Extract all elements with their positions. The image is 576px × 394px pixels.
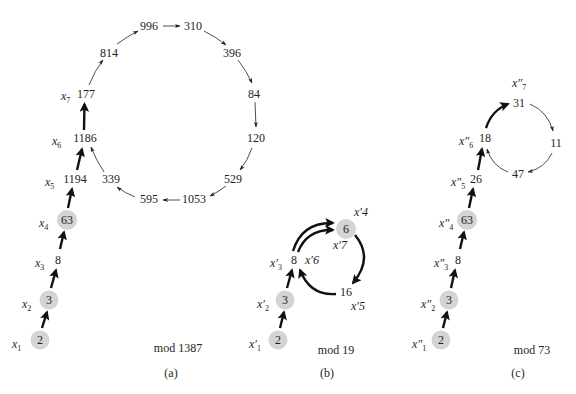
node-value: 47	[512, 167, 524, 181]
cycle-arrow	[528, 153, 552, 172]
node-value: 8	[291, 253, 297, 267]
cycle-arrow	[300, 270, 336, 294]
node-label: x5	[44, 175, 54, 191]
node-value: 595	[140, 192, 158, 206]
node-label: x″3	[433, 256, 448, 272]
node-value: 2	[438, 333, 444, 347]
panel-label: (b)	[320, 366, 334, 380]
node-label: x1	[11, 337, 21, 353]
tail-arrow	[68, 189, 72, 208]
cycle-arrow	[240, 148, 252, 170]
modulus-label: mod 1387	[154, 341, 202, 355]
node-value: 63	[61, 213, 73, 227]
node-value: 8	[55, 253, 61, 267]
cycle-arrow	[117, 187, 135, 197]
node-value: 3	[282, 293, 288, 307]
cycle-arrow	[238, 60, 252, 83]
node-label: x′6	[304, 253, 319, 267]
cycle-arrow	[91, 147, 104, 172]
node-value: 3	[446, 293, 452, 307]
node-value: 18	[479, 131, 491, 145]
node-label: x″2	[420, 297, 435, 313]
node-value: 1186	[73, 131, 97, 145]
node-value: 63	[461, 213, 473, 227]
node-value: 2	[275, 333, 281, 347]
node-label: x′4	[353, 205, 368, 219]
cycle-arrow	[486, 104, 508, 128]
tail-arrow	[280, 312, 284, 328]
node-label: x″5	[450, 175, 465, 191]
cycle-arrow	[204, 31, 226, 45]
cycle-arrow	[353, 235, 364, 283]
cycle-arrow	[293, 223, 333, 251]
node-label: x′3	[269, 256, 282, 272]
modulus-label: mod 19	[318, 343, 354, 357]
panel-c: 2 3 8 63 26 18 31 11 47 x″1 x″2 x″3 x″4 …	[411, 76, 562, 380]
cycle-arrow	[487, 149, 508, 172]
node-label: x′1	[248, 337, 261, 353]
tail-arrow	[451, 270, 455, 288]
panel-label: (a)	[164, 366, 177, 380]
node-value: 16	[340, 285, 352, 299]
node-value: 8	[455, 253, 461, 267]
tail-arrow	[443, 312, 447, 328]
node-value: 2	[37, 333, 43, 347]
tail-arrow	[60, 232, 64, 249]
node-label: x2	[21, 297, 31, 313]
cycle-arrow	[530, 104, 553, 131]
node-value: 996	[140, 19, 158, 33]
node-label: x6	[51, 134, 61, 150]
tail-arrow	[77, 149, 82, 170]
node-value: 396	[223, 46, 241, 60]
tail-arrow	[42, 312, 47, 328]
tail-arrow	[469, 189, 473, 208]
tail-arrow	[51, 270, 56, 288]
panel-label: (c)	[511, 366, 524, 380]
node-label: x3	[34, 256, 44, 272]
node-value: 814	[100, 46, 118, 60]
node-value: 84	[248, 87, 260, 101]
modulus-label: mod 73	[514, 343, 550, 357]
panel-b: 2 3 8 6 16 x′1 x′2 x′3 x′6 x′4 x′7 x′5 m…	[248, 205, 368, 380]
node-value: 31	[513, 96, 525, 110]
node-label: x″6	[458, 134, 473, 150]
node-value: 529	[224, 172, 242, 186]
tail-arrow	[478, 149, 482, 170]
cycle-arrow	[255, 102, 256, 127]
pollard-rho-diagram: 2 3 8 63 1194 1186 177 x1 x2 x3 x4 x5 x6…	[0, 0, 576, 394]
tail-arrow	[460, 232, 464, 249]
cycle-arrow	[210, 186, 226, 196]
node-label: x″4	[438, 216, 453, 232]
node-label: x″1	[411, 337, 426, 353]
node-value: 3	[46, 293, 52, 307]
node-value: 310	[184, 19, 202, 33]
node-label: x′7	[332, 238, 348, 252]
node-value: 11	[550, 136, 562, 150]
node-label: x′5	[350, 299, 365, 313]
node-label: x4	[38, 216, 48, 232]
node-value: 177	[77, 87, 95, 101]
node-value: 120	[247, 131, 265, 145]
node-value: 339	[102, 172, 120, 186]
panel-a: 2 3 8 63 1194 1186 177 x1 x2 x3 x4 x5 x6…	[11, 19, 265, 380]
cycle-arrow	[89, 60, 103, 85]
node-value: 6	[343, 222, 349, 236]
node-label: x″7	[511, 76, 526, 92]
node-value: 26	[470, 172, 482, 186]
node-label: x7	[60, 89, 70, 105]
tail-arrow	[84, 104, 85, 130]
node-value: 1194	[63, 172, 87, 186]
tail-arrow	[287, 270, 292, 288]
node-label: x′2	[256, 297, 269, 313]
cycle-arrow	[117, 31, 138, 44]
node-value: 1053	[182, 192, 206, 206]
